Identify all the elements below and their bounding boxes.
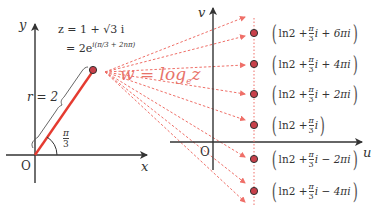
radius-brace [32,67,88,148]
log-mapping-label: w = logez [120,64,200,86]
z-origin-label: O [21,160,31,172]
x-axis-label: x [141,160,148,173]
modulus-label: r = 2 [27,91,58,103]
log-value-label: (ln2 +π3i + 2πi) [270,83,359,105]
u-axis-label: u [363,146,371,159]
y-axis-label: y [19,18,26,31]
z-point [89,66,96,73]
log-value-label: (ln2 +π3i + 4πi) [270,53,359,75]
angle-arc [47,137,57,155]
log-value-label: (ln2 +π3i + 6πi) [270,22,359,44]
log-value-label: (ln2 +π3i) [270,114,327,136]
z-equation: z = 1 + √3 i [58,24,124,35]
log-value-label: (ln2 +π3i − 2πi) [270,148,359,170]
angle-label: π 3 [63,128,69,149]
log-value-label: (ln2 +π3i − 4πi) [270,180,359,202]
w-origin-label: O [200,146,210,158]
v-axis-label: v [198,6,205,19]
z-polar-form: = 2ei(π/3 + 2nπ) [66,42,135,54]
